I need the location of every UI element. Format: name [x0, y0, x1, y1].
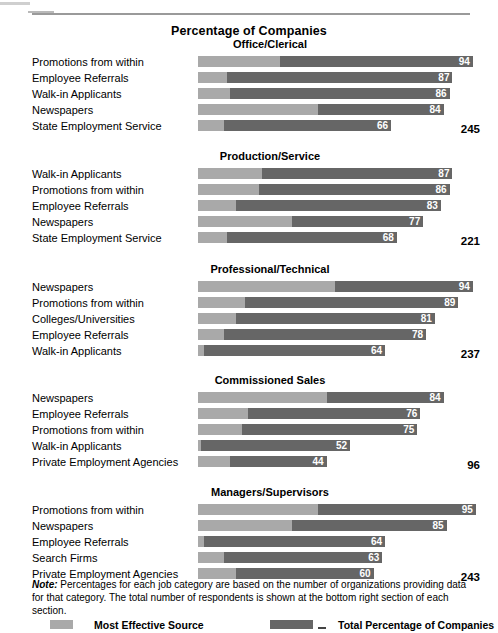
chart-row: Newspapers84 — [0, 102, 498, 118]
bar-value-label: 83 — [198, 200, 441, 211]
row-label: Employee Referrals — [32, 407, 129, 421]
section-title: Commissioned Sales — [0, 374, 498, 386]
bar-track: 86 — [198, 88, 450, 99]
bar-track: 95 — [198, 504, 476, 515]
bar-value-label: 86 — [198, 88, 450, 99]
legend-swatch-light-icon — [50, 620, 73, 629]
row-label: Walk-in Applicants — [32, 344, 121, 358]
row-label: Promotions from within — [32, 296, 144, 310]
row-label: Walk-in Applicants — [32, 167, 121, 181]
page-title: Percentage of Companies — [0, 24, 498, 38]
row-label: State Employment Service — [32, 231, 162, 245]
chart-row: Promotions from within95 — [0, 502, 498, 518]
chart-row: Promotions from within94 — [0, 54, 498, 70]
section-rows: Walk-in Applicants87Promotions from with… — [0, 166, 498, 246]
bar-track: 77 — [198, 216, 423, 227]
bar-value-label: 63 — [198, 552, 382, 563]
bar-track: 44 — [198, 456, 327, 467]
bar-value-label: 94 — [198, 56, 473, 67]
row-label: Employee Referrals — [32, 535, 129, 549]
row-label: Walk-in Applicants — [32, 439, 121, 453]
chart-row: Promotions from within75 — [0, 422, 498, 438]
header-divider — [32, 13, 470, 15]
chart-row: Walk-in Applicants52 — [0, 438, 498, 454]
row-label: Newspapers — [32, 391, 93, 405]
chart-section: Commissioned SalesNewspapers84Employee R… — [0, 374, 498, 470]
scan-artifact-top-left — [0, 2, 30, 5]
row-label: Newspapers — [32, 103, 93, 117]
bar-value-label: 86 — [198, 184, 450, 195]
bar-value-label: 64 — [198, 345, 385, 356]
section-title: Managers/Supervisors — [0, 486, 498, 498]
bar-track: 63 — [198, 552, 382, 563]
footnote-lead: Note: — [32, 579, 58, 590]
bar-track: 94 — [198, 56, 473, 67]
chart-row: Employee Referrals87 — [0, 70, 498, 86]
bar-track: 85 — [198, 520, 447, 531]
chart-row: Private Employment Agencies44 — [0, 454, 498, 470]
row-label: Promotions from within — [32, 55, 144, 69]
bar-value-label: 94 — [198, 281, 473, 292]
bar-value-label: 76 — [198, 408, 420, 419]
bar-track: 83 — [198, 200, 441, 211]
chart-row: State Employment Service66 — [0, 118, 498, 134]
bar-track: 94 — [198, 281, 473, 292]
bar-value-label: 87 — [198, 72, 452, 83]
chart-section: Professional/TechnicalNewspapers94Promot… — [0, 263, 498, 359]
bar-value-label: 44 — [198, 456, 327, 467]
section-rows: Promotions from within94Employee Referra… — [0, 54, 498, 134]
chart-row: Colleges/Universities81 — [0, 311, 498, 327]
chart-row: State Employment Service68 — [0, 230, 498, 246]
bar-track: 52 — [198, 440, 350, 451]
chart-row: Employee Referrals78 — [0, 327, 498, 343]
chart-row: Walk-in Applicants86 — [0, 86, 498, 102]
bar-track: 75 — [198, 424, 417, 435]
bar-track: 84 — [198, 392, 444, 403]
legend-label-total-percentage: Total Percentage of Companies — [338, 619, 494, 631]
row-label: Promotions from within — [32, 183, 144, 197]
chart-row: Newspapers94 — [0, 279, 498, 295]
bar-value-label: 95 — [198, 504, 476, 515]
section-title: Production/Service — [0, 150, 498, 162]
row-label: Newspapers — [32, 215, 93, 229]
bar-track: 84 — [198, 104, 444, 115]
row-label: Employee Referrals — [32, 328, 129, 342]
chart-row: Employee Referrals76 — [0, 406, 498, 422]
bar-track: 87 — [198, 168, 452, 179]
row-label: Newspapers — [32, 519, 93, 533]
bar-value-label: 66 — [198, 120, 391, 131]
row-label: Employee Referrals — [32, 199, 129, 213]
row-label: Private Employment Agencies — [32, 455, 178, 469]
section-title: Office/Clerical — [0, 38, 498, 50]
chart-row: Newspapers85 — [0, 518, 498, 534]
section-respondents-total: 96 — [467, 458, 480, 472]
bar-value-label: 81 — [198, 313, 435, 324]
bar-track: 81 — [198, 313, 435, 324]
row-label: Employee Referrals — [32, 71, 129, 85]
bar-track: 64 — [198, 536, 385, 547]
legend-label-most-effective-source: Most Effective Source — [94, 619, 204, 631]
row-label: Promotions from within — [32, 503, 144, 517]
section-rows: Newspapers94Promotions from within89Coll… — [0, 279, 498, 359]
bar-value-label: 78 — [198, 329, 426, 340]
bar-track: 66 — [198, 120, 391, 131]
legend-dash-icon — [318, 627, 326, 629]
chart-section: Production/ServiceWalk-in Applicants87Pr… — [0, 150, 498, 246]
row-label: Search Firms — [32, 551, 97, 565]
footnote-text: Percentages for each job category are ba… — [32, 579, 466, 616]
section-respondents-total: 221 — [461, 234, 480, 248]
chart-row: Employee Referrals83 — [0, 198, 498, 214]
row-label: Newspapers — [32, 280, 93, 294]
bar-value-label: 52 — [198, 440, 350, 451]
bar-track: 78 — [198, 329, 426, 340]
chart-legend: Most Effective Source Total Percentage o… — [0, 619, 498, 633]
bar-value-label: 68 — [198, 232, 397, 243]
bar-value-label: 64 — [198, 536, 385, 547]
bar-value-label: 75 — [198, 424, 417, 435]
row-label: State Employment Service — [32, 119, 162, 133]
section-rows: Promotions from within95Newspapers85Empl… — [0, 502, 498, 582]
chart-section: Managers/SupervisorsPromotions from with… — [0, 486, 498, 582]
section-rows: Newspapers84Employee Referrals76Promotio… — [0, 390, 498, 470]
section-respondents-total: 237 — [461, 347, 480, 361]
chart-row: Newspapers84 — [0, 390, 498, 406]
